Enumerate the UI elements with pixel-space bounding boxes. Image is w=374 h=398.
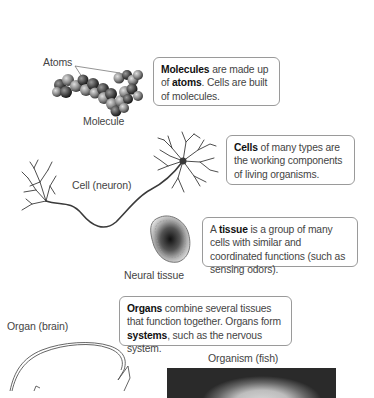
tissue-label: Neural tissue [124, 269, 184, 281]
cell-label: Cell (neuron) [72, 179, 131, 191]
fish-photo [167, 368, 336, 398]
molecule-description: Molecules are made up of atoms. Cells ar… [153, 57, 280, 106]
atoms-term: atoms [172, 77, 202, 88]
tissue-term: tissue [219, 224, 248, 235]
molecule-label: Molecule [83, 115, 124, 127]
brain-icon [10, 343, 130, 391]
neural-tissue-icon [151, 216, 190, 262]
systems-term: systems [127, 330, 167, 341]
organs-term: Organs [127, 303, 162, 314]
cells-term: Cells [234, 142, 258, 153]
cell-description: Cells of many types are the working comp… [226, 135, 355, 185]
molecule-icon [52, 66, 143, 117]
organ-description: Organs combine several tissues that func… [119, 296, 292, 346]
organ-label: Organ (brain) [7, 320, 68, 332]
atoms-label: Atoms [43, 56, 72, 68]
tissue-description: A tissue is a group of many cells with s… [202, 217, 358, 267]
molecule-term: Molecules [161, 64, 209, 75]
organism-label: Organism (fish) [208, 352, 278, 364]
